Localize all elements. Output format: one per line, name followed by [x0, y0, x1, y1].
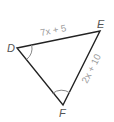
- vertex-label-E: E: [97, 18, 105, 30]
- triangle-diagram: D E F 7x + 5 2x + 10: [0, 0, 114, 122]
- angle-mark-D: [27, 45, 32, 59]
- side-label-DE: 7x + 5: [39, 22, 67, 38]
- side-label-EF: 2x + 10: [79, 52, 103, 85]
- vertex-label-D: D: [7, 42, 15, 54]
- vertex-label-F: F: [59, 107, 67, 119]
- angle-mark-F: [53, 90, 71, 93]
